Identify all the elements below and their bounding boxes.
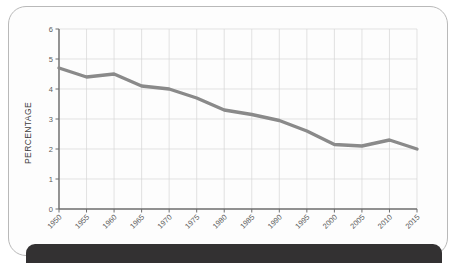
y-tick-label: 0 — [49, 205, 53, 214]
x-tick-label: 2015 — [403, 213, 421, 231]
y-tick-label: 6 — [49, 25, 53, 34]
x-tick-label: 1960 — [101, 213, 119, 231]
y-tick-label: 3 — [49, 115, 53, 124]
y-axis-ticks: 0123456 — [49, 25, 59, 214]
x-tick-label: 1965 — [128, 213, 146, 231]
chart-card: 0123456 19501955196019651970197519801985… — [8, 6, 448, 256]
y-tick-label: 4 — [49, 85, 53, 94]
x-tick-label: 1975 — [183, 213, 201, 231]
x-tick-label: 1985 — [238, 213, 256, 231]
x-tick-label: 1995 — [293, 213, 311, 231]
x-axis-ticks: 1950195519601965197019751980198519901995… — [45, 209, 421, 231]
y-tick-label: 1 — [49, 175, 53, 184]
x-tick-label: 1970 — [156, 213, 174, 231]
y-axis-title: PERCENTAGE — [23, 102, 33, 164]
x-tick-label: 2010 — [376, 213, 394, 231]
x-tick-label: 1950 — [45, 213, 63, 231]
line-chart: 0123456 19501955196019651970197519801985… — [9, 7, 448, 256]
x-tick-label: 1990 — [266, 213, 284, 231]
bottom-accent-bar — [26, 244, 442, 263]
x-tick-label: 2000 — [321, 213, 339, 231]
x-tick-label: 2005 — [348, 213, 366, 231]
data-series-line — [59, 68, 417, 149]
grid-lines — [59, 29, 417, 209]
x-tick-label: 1980 — [211, 213, 229, 231]
y-tick-label: 5 — [49, 55, 53, 64]
y-tick-label: 2 — [49, 145, 53, 154]
x-tick-label: 1955 — [73, 213, 91, 231]
